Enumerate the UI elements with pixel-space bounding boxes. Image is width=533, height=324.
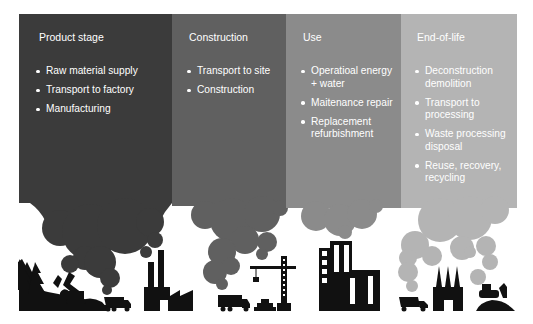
factory-icon	[433, 266, 463, 311]
stage-items-list: Raw material supply Transport to factory…	[35, 65, 170, 122]
stage-items-list: Deconstruction demolition Transport to p…	[414, 65, 515, 191]
truck-icon	[218, 295, 250, 312]
smoke-plume-use	[286, 199, 401, 239]
bricks-icon	[254, 299, 276, 311]
panel-end-of-life: End-of-life Deconstruction demolition Tr…	[401, 14, 517, 203]
factory-icon	[144, 250, 193, 311]
tower-crane-icon	[250, 256, 296, 311]
panel-construction: Construction Transport to site Construct…	[172, 14, 286, 203]
list-item: Transport to site	[186, 65, 286, 78]
panel-use: Use Operatioal energy + water Maitenance…	[286, 14, 401, 203]
bulldozer-icon	[476, 283, 515, 311]
truck-icon	[399, 297, 428, 312]
list-item: Replacement refurbishment	[300, 116, 398, 141]
panel-title: Product stage	[39, 31, 104, 43]
list-item: Maitenance repair	[300, 97, 398, 110]
list-item: Operatioal energy + water	[300, 65, 398, 90]
list-item: Deconstruction demolition	[414, 65, 515, 90]
list-item: Reuse, recovery, recycling	[414, 160, 515, 185]
list-item: Construction	[186, 84, 286, 97]
list-item: Transport to processing	[414, 97, 515, 122]
panel-title: Construction	[189, 31, 248, 43]
dump-truck-icon	[104, 297, 131, 312]
stage-items-list: Transport to site Construction	[186, 65, 286, 103]
office-building-icon	[319, 241, 380, 311]
panel-title: End-of-life	[417, 31, 465, 43]
smoke-plume-construction	[172, 196, 288, 290]
panel-product-stage: Product stage Raw material supply Transp…	[19, 14, 172, 203]
list-item: Manufacturing	[35, 103, 170, 116]
list-item: Transport to factory	[35, 84, 170, 97]
list-item: Raw material supply	[35, 65, 170, 78]
list-item: Waste processing disposal	[414, 128, 515, 153]
stage-items-list: Operatioal energy + water Maitenance rep…	[300, 65, 398, 147]
panel-title: Use	[303, 31, 322, 43]
